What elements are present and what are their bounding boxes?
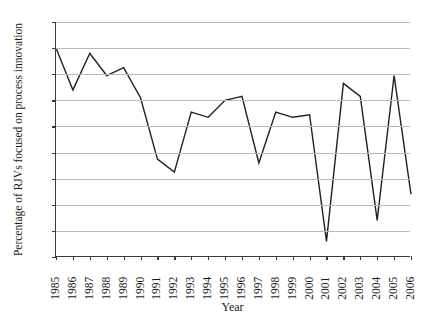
y-tick-mark bbox=[52, 231, 56, 232]
x-tick-mark bbox=[293, 256, 294, 260]
x-tick-mark bbox=[124, 256, 125, 260]
x-tick-mark bbox=[377, 256, 378, 260]
y-tick-mark bbox=[52, 48, 56, 49]
gridline bbox=[56, 205, 410, 206]
y-tick-mark bbox=[52, 126, 56, 127]
x-tick-mark bbox=[141, 256, 142, 260]
y-tick-mark bbox=[52, 74, 56, 75]
x-tick-mark bbox=[90, 256, 91, 260]
gridline bbox=[56, 179, 410, 180]
x-tick-mark bbox=[208, 256, 209, 260]
y-tick-mark bbox=[52, 100, 56, 101]
x-tick-mark bbox=[394, 256, 395, 260]
x-tick-mark bbox=[157, 256, 158, 260]
gridline bbox=[56, 100, 410, 101]
x-tick-mark bbox=[73, 256, 74, 260]
x-tick-mark bbox=[259, 256, 260, 260]
y-axis-title: Percentage of RJVs focused on process in… bbox=[12, 22, 26, 257]
gridline bbox=[56, 48, 410, 49]
x-tick-mark bbox=[310, 256, 311, 260]
x-axis-title: Year bbox=[55, 300, 410, 315]
x-tick-mark bbox=[276, 256, 277, 260]
gridline bbox=[56, 153, 410, 154]
x-tick-mark bbox=[242, 256, 243, 260]
x-tick-mark bbox=[360, 256, 361, 260]
y-tick-mark bbox=[52, 22, 56, 23]
plot-area: 0102030405060708090198519861987198819891… bbox=[55, 22, 410, 257]
x-tick-mark bbox=[107, 256, 108, 260]
gridline bbox=[56, 126, 410, 127]
x-tick-mark bbox=[225, 256, 226, 260]
y-tick-mark bbox=[52, 205, 56, 206]
data-line-series bbox=[56, 22, 411, 257]
y-tick-mark bbox=[52, 153, 56, 154]
x-tick-mark bbox=[343, 256, 344, 260]
x-tick-mark bbox=[191, 256, 192, 260]
x-tick-mark bbox=[411, 256, 412, 260]
data-polyline bbox=[56, 48, 411, 241]
gridline bbox=[56, 257, 410, 258]
x-tick-mark bbox=[326, 256, 327, 260]
line-chart: Percentage of RJVs focused on process in… bbox=[0, 0, 425, 328]
x-tick-mark bbox=[56, 256, 57, 260]
gridline bbox=[56, 74, 410, 75]
gridline bbox=[56, 22, 410, 23]
y-tick-mark bbox=[52, 179, 56, 180]
gridline bbox=[56, 231, 410, 232]
x-tick-mark bbox=[174, 256, 175, 260]
